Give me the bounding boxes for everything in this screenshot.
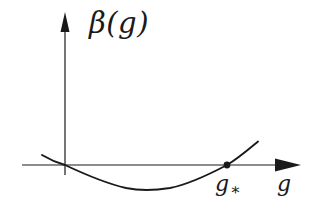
fixed-point-label-base: g <box>215 171 229 196</box>
fixed-point-label: g∗ <box>215 173 241 198</box>
plot-canvas <box>0 0 318 211</box>
fixed-point-marker <box>224 162 231 169</box>
beta-function-figure: β(g) g∗ g <box>0 0 318 211</box>
x-axis-label: g <box>277 173 291 195</box>
y-axis-label: β(g) <box>89 9 149 38</box>
fixed-point-label-subscript: ∗ <box>230 180 241 199</box>
y-axis-arrowhead-icon <box>61 12 70 32</box>
x-axis-arrowhead-icon <box>275 159 301 172</box>
